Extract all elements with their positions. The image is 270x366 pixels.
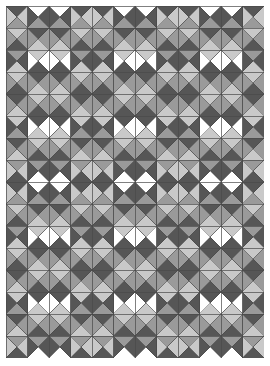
quilt-pattern-canvas: [6, 6, 264, 358]
quilt-figure: [0, 0, 270, 366]
